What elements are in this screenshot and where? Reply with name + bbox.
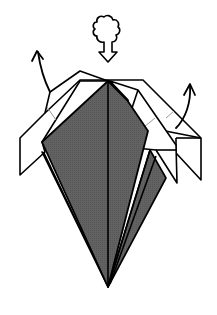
diagram-canvas [0,0,217,315]
unfold-arrow-left-icon [32,51,50,92]
origami-diagram: Origami base with dark colored side faci… [0,0,217,315]
push-in-symbol-icon [93,16,119,62]
